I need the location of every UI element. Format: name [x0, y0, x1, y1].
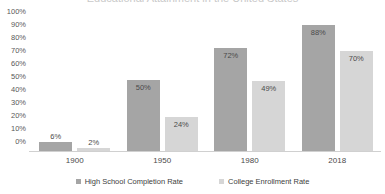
bar-value-label: 88%: [302, 29, 335, 37]
bar-hs-1950[interactable]: 50%: [127, 80, 160, 152]
y-axis-tick: 20%: [0, 112, 26, 120]
legend-swatch-icon: [76, 179, 81, 184]
x-axis-line: [29, 151, 381, 152]
bar-slot: 49%: [252, 8, 285, 151]
plot-area: 100% 90% 80% 70% 60% 50% 40% 30% 20% 10%…: [0, 8, 385, 151]
x-axis-label-1950: 1950: [119, 154, 207, 167]
legend-item-college[interactable]: College Enrollment Rate: [219, 177, 309, 186]
x-axis-label-2018: 2018: [294, 154, 382, 167]
bar-group-1980: 72% 49%: [206, 8, 294, 151]
chart-title-text: Educational Attainment in the United Sta…: [87, 0, 299, 4]
bar-college-1950[interactable]: 24%: [165, 117, 198, 151]
bar-group-1950: 50% 24%: [119, 8, 207, 151]
bar-slot: 88%: [302, 8, 335, 151]
bar-slot: 72%: [214, 8, 247, 151]
bar-slot: 2%: [77, 8, 110, 151]
bar-college-2018[interactable]: 70%: [340, 51, 373, 151]
y-axis-tick: 50%: [0, 73, 26, 81]
chart-title-cropped: Educational Attainment in the United Sta…: [0, 0, 385, 7]
bar-value-label: 2%: [77, 139, 110, 147]
bar-group-1900: 6% 2%: [31, 8, 119, 151]
y-axis-tick: 30%: [0, 99, 26, 107]
bar-chart: Educational Attainment in the United Sta…: [0, 0, 385, 194]
bar-hs-2018[interactable]: 88%: [302, 25, 335, 151]
bar-value-label: 6%: [39, 133, 72, 141]
bar-value-label: 50%: [127, 84, 160, 92]
bar-slot: 24%: [165, 8, 198, 151]
bar-value-label: 49%: [252, 85, 285, 93]
y-axis-tick: 40%: [0, 86, 26, 94]
bar-slot: 50%: [127, 8, 160, 151]
bar-college-1980[interactable]: 49%: [252, 81, 285, 151]
bars-area: 6% 2% 50% 24%: [31, 8, 381, 151]
legend-label: High School Completion Rate: [85, 177, 183, 186]
y-axis-tick: 60%: [0, 60, 26, 68]
y-axis-tick: 10%: [0, 125, 26, 133]
bar-value-label: 72%: [214, 52, 247, 60]
x-axis-label-1900: 1900: [31, 154, 119, 167]
chart-legend: High School Completion Rate College Enro…: [0, 174, 385, 188]
x-axis-label-1980: 1980: [206, 154, 294, 167]
y-axis-tick: 0%: [0, 138, 26, 146]
y-axis-tick: 80%: [0, 34, 26, 42]
bar-slot: 6%: [39, 8, 72, 151]
bar-group-2018: 88% 70%: [294, 8, 382, 151]
bar-value-label: 24%: [165, 121, 198, 129]
legend-item-high-school[interactable]: High School Completion Rate: [76, 177, 183, 186]
bar-hs-1980[interactable]: 72%: [214, 48, 247, 151]
legend-label: College Enrollment Rate: [228, 177, 309, 186]
y-axis-tick: 70%: [0, 47, 26, 55]
legend-swatch-icon: [219, 179, 224, 184]
y-axis: 100% 90% 80% 70% 60% 50% 40% 30% 20% 10%…: [0, 8, 29, 151]
bar-slot: 70%: [340, 8, 373, 151]
bar-hs-1900[interactable]: 6%: [39, 142, 72, 151]
x-axis-categories: 1900 1950 1980 2018: [31, 154, 381, 167]
y-axis-tick: 90%: [0, 21, 26, 29]
y-axis-tick: 100%: [0, 8, 26, 16]
bar-value-label: 70%: [340, 55, 373, 63]
